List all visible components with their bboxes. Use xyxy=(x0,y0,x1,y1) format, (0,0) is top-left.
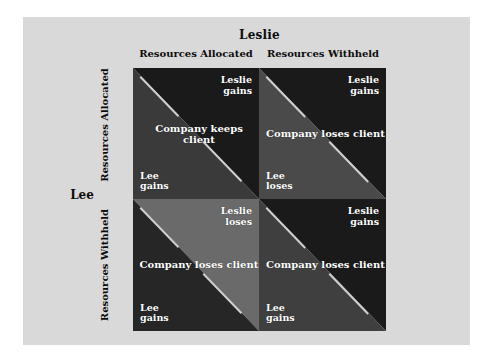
company-outcome-label: Company loses client xyxy=(259,259,386,271)
column-header-resources-withheld: Resources Withheld xyxy=(260,48,386,59)
lee-outcome-line2: gains xyxy=(140,181,169,192)
company-outcome-line2: loses client xyxy=(321,128,385,139)
lee-outcome-line2: gains xyxy=(266,313,295,324)
leslie-outcome-label: Leslie loses xyxy=(221,206,252,227)
leslie-outcome-line2: loses xyxy=(221,217,252,228)
lee-outcome-line2: loses xyxy=(266,181,293,192)
leslie-outcome-line2: gains xyxy=(348,86,379,97)
lee-outcome-label: Lee gains xyxy=(266,303,295,324)
leslie-outcome-label: Leslie gains xyxy=(348,206,379,227)
company-outcome-line2: loses client xyxy=(195,259,259,270)
matrix-cell: Leslie loses Lee gains Company loses cli… xyxy=(133,199,259,331)
company-outcome-line1: Company xyxy=(140,259,192,270)
row-header-resources-allocated: Resources Allocated xyxy=(99,58,115,192)
lee-outcome-label: Lee loses xyxy=(266,171,293,192)
leslie-outcome-line2: gains xyxy=(221,86,252,97)
payoff-matrix: Leslie gains Lee gains Company keeps cli… xyxy=(133,68,386,331)
leslie-outcome-label: Leslie gains xyxy=(348,75,379,96)
company-outcome-label: Company loses client xyxy=(133,259,259,271)
column-header-resources-allocated: Resources Allocated xyxy=(133,48,259,59)
lee-outcome-line2: gains xyxy=(140,313,169,324)
row-header-resources-withheld: Resources Withheld xyxy=(99,198,115,332)
lee-outcome-label: Lee gains xyxy=(140,303,169,324)
matrix-cell: Leslie gains Lee loses Company loses cli… xyxy=(259,68,386,199)
matrix-cell: Leslie gains Lee gains Company keeps cli… xyxy=(133,68,259,199)
lee-outcome-label: Lee gains xyxy=(140,171,169,192)
leslie-outcome-label: Leslie gains xyxy=(221,75,252,96)
company-outcome-line2: loses client xyxy=(321,259,385,270)
diagram-page: Leslie Lee Resources Allocated Resources… xyxy=(0,0,491,362)
leslie-outcome-line2: gains xyxy=(348,217,379,228)
company-outcome-line1: Company xyxy=(155,122,207,133)
company-outcome-label: Company loses client xyxy=(259,128,386,140)
company-outcome-line1: Company xyxy=(266,128,318,139)
company-outcome-label: Company keeps client xyxy=(133,122,259,145)
matrix-cell: Leslie gains Lee gains Company loses cli… xyxy=(259,199,386,331)
column-axis-title: Leslie xyxy=(133,28,386,42)
company-outcome-line1: Company xyxy=(266,259,318,270)
